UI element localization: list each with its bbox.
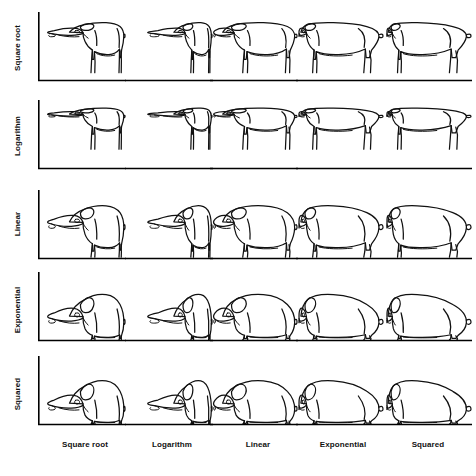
pig-part-ear xyxy=(80,24,93,31)
pig-part-eye xyxy=(389,219,391,222)
pig-part-legFrontB xyxy=(94,421,95,424)
pig-part-legFrontB xyxy=(401,245,402,257)
pig-part-legBackB xyxy=(289,245,290,258)
pig-drawing xyxy=(299,294,383,339)
pig-part-legFrontA xyxy=(313,244,314,257)
pig-part-head xyxy=(148,215,185,226)
pig-part-ear xyxy=(391,109,400,113)
pig-part-eye xyxy=(389,30,391,32)
pig-part-tail xyxy=(466,319,471,324)
pig-part-shoulder xyxy=(317,31,319,46)
pig-part-haunch xyxy=(282,216,286,241)
pig-part-shoulder xyxy=(95,31,97,46)
cell-row-squared-col-squared xyxy=(384,356,474,444)
row-label-row-square-root: Square root xyxy=(13,3,23,93)
cell-row-square-root-col-linear xyxy=(210,12,300,100)
cell-row-square-root-col-logarithm xyxy=(125,12,215,100)
cell-row-logarithm-col-exponential xyxy=(296,100,386,188)
pig-part-shoulder xyxy=(317,400,319,418)
pig-drawing xyxy=(214,108,297,149)
pig-part-legFrontB xyxy=(316,245,317,257)
cell-row-square-root-col-squared xyxy=(384,12,474,100)
pig-part-legBackA xyxy=(285,49,286,73)
pig-part-legFrontB xyxy=(316,52,317,73)
pig-part-shoulder xyxy=(95,219,97,239)
pig-drawing xyxy=(387,206,471,257)
pig-part-legFrontB xyxy=(247,245,248,257)
pig-part-ear xyxy=(231,298,246,313)
pig-part-legFrontA xyxy=(91,244,92,257)
pig-drawing xyxy=(148,294,212,339)
pig-part-snout xyxy=(150,34,159,37)
pig-part-body xyxy=(223,206,295,251)
pig-part-legFrontA xyxy=(398,50,399,73)
pig-drawing xyxy=(387,294,471,339)
pig-part-head xyxy=(148,395,185,408)
pig-part-shoulder xyxy=(247,113,250,123)
pig-part-ear xyxy=(391,208,400,219)
pig-part-legFrontA xyxy=(191,244,192,257)
pig-part-ear xyxy=(183,384,193,400)
pig-part-legFrontA xyxy=(91,50,92,73)
pig-part-legBackA xyxy=(119,126,120,150)
pig-part-haunch xyxy=(117,216,119,241)
pig-part-legBackA xyxy=(364,243,366,257)
pig-part-ear xyxy=(80,298,93,313)
pig-drawing xyxy=(214,294,297,339)
pig-part-ear xyxy=(231,109,246,113)
pig-part-legBackA xyxy=(449,243,451,257)
pig-part-shoulder xyxy=(193,31,194,46)
pig-part-legFrontA xyxy=(191,127,192,150)
pig-part-tail xyxy=(466,406,471,411)
pig-drawing xyxy=(48,206,125,257)
pig-part-snout xyxy=(214,224,216,228)
pig-part-shoulder xyxy=(95,113,97,123)
pig-part-ear xyxy=(80,384,93,400)
cell-row-squared-col-square-root xyxy=(38,356,128,444)
pig-part-haunch xyxy=(117,112,119,125)
pig-part-legFrontB xyxy=(247,421,248,424)
pig-part-haunch xyxy=(117,396,119,420)
pig-part-legFrontA xyxy=(398,421,399,424)
cell-row-exponential-col-linear xyxy=(210,272,300,360)
pig-drawing xyxy=(299,108,383,149)
pig-drawing xyxy=(214,23,297,73)
pig-part-head xyxy=(148,28,185,35)
cell-row-linear-col-linear xyxy=(210,190,300,278)
pig-part-eye xyxy=(389,313,391,317)
pig-part-shoulder xyxy=(95,400,97,418)
pig-part-ear xyxy=(80,109,93,113)
pig-part-legBackA xyxy=(285,126,286,150)
pig-drawing xyxy=(214,381,297,424)
pig-part-tail xyxy=(466,225,471,230)
pig-part-ear xyxy=(183,298,193,313)
pig-part-shoulder xyxy=(247,219,250,239)
pig-drawing xyxy=(387,381,471,424)
pig-part-legBackB xyxy=(289,421,290,424)
pig-part-legBackA xyxy=(119,49,120,73)
pig-part-legBackB xyxy=(289,336,290,340)
pig-drawing xyxy=(148,23,212,73)
row-label-row-logarithm: Logarithm xyxy=(13,91,23,181)
pig-part-eye xyxy=(75,30,80,32)
cell-row-linear-col-square-root xyxy=(38,190,128,278)
pig-part-legFrontB xyxy=(94,245,95,257)
pig-part-legFrontA xyxy=(91,127,92,150)
pig-drawing xyxy=(48,294,125,339)
cell-row-logarithm-col-squared xyxy=(384,100,474,188)
pig-part-legBackA xyxy=(364,49,366,73)
pig-part-legFrontB xyxy=(94,128,95,150)
pig-part-haunch xyxy=(443,216,450,241)
pig-part-haunch xyxy=(358,309,365,334)
pig-part-legFrontB xyxy=(94,336,95,340)
pig-drawing xyxy=(299,206,383,257)
pig-part-legFrontB xyxy=(316,421,317,424)
pig-part-shoulder xyxy=(247,313,250,332)
pig-part-legFrontA xyxy=(398,127,399,150)
pig-part-shoulder xyxy=(193,219,194,239)
pig-part-ear xyxy=(391,384,400,400)
pig-part-legBackA xyxy=(449,126,451,150)
pig-part-shoulder xyxy=(193,400,194,418)
pig-part-ear xyxy=(305,109,316,113)
